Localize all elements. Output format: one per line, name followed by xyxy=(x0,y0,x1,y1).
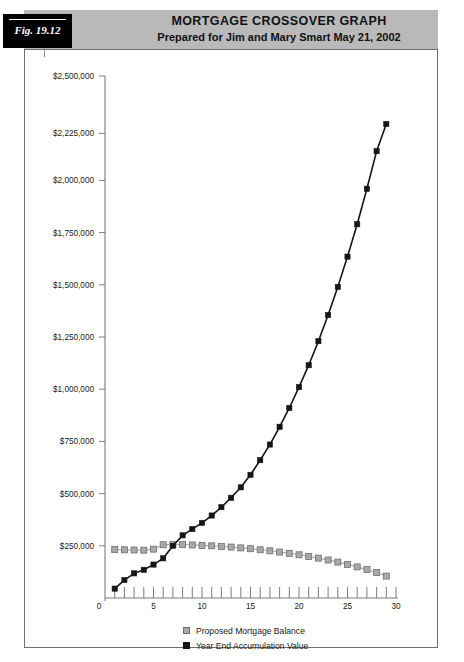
data-point-marker xyxy=(121,547,127,553)
data-point-marker xyxy=(238,485,243,490)
figure-tag: Fig. 19.12 xyxy=(3,14,72,48)
figure-tag-label: Fig. 19.12 xyxy=(3,24,72,36)
data-point-marker xyxy=(131,547,137,553)
data-point-marker xyxy=(374,570,380,576)
data-point-marker xyxy=(218,543,224,549)
y-axis-tick-label: $1,500,000 xyxy=(53,281,94,290)
y-axis-tick-label: $2,500,000 xyxy=(53,72,94,81)
chart-plot-area: 0$250,000$500,000$750,000$1,000,000$1,25… xyxy=(0,0,464,662)
figure-tag-stem xyxy=(44,48,45,57)
data-point-marker xyxy=(257,547,263,553)
data-point-marker xyxy=(315,555,321,561)
data-point-marker xyxy=(219,505,224,510)
y-axis-tick-label: $2,225,000 xyxy=(53,129,94,138)
data-point-marker xyxy=(151,546,157,552)
legend-swatch-icon xyxy=(183,642,190,649)
legend-swatch-icon xyxy=(183,627,190,634)
data-point-marker xyxy=(122,577,127,582)
y-axis-tick-label: $250,000 xyxy=(60,542,95,551)
data-point-marker xyxy=(199,520,204,525)
data-point-marker xyxy=(160,542,166,548)
data-point-marker xyxy=(345,254,350,259)
chart-legend: Proposed Mortgage Balance Year End Accum… xyxy=(183,624,403,654)
legend-label: Year End Accumulation Value xyxy=(196,641,308,651)
data-point-marker xyxy=(209,543,215,549)
y-axis-tick-label: $2,000,000 xyxy=(53,176,94,185)
data-point-marker xyxy=(151,562,156,567)
data-point-marker xyxy=(238,545,244,551)
data-point-marker xyxy=(296,385,301,390)
data-point-marker xyxy=(190,527,195,532)
data-point-marker xyxy=(306,553,312,559)
data-point-marker xyxy=(199,542,205,548)
data-point-marker xyxy=(248,472,253,477)
data-point-marker xyxy=(355,222,360,227)
x-axis-tick-label: 5 xyxy=(151,602,156,611)
data-point-marker xyxy=(170,543,175,548)
x-axis-tick-label: 30 xyxy=(391,602,401,611)
data-point-marker xyxy=(161,556,166,561)
data-point-marker xyxy=(326,312,331,317)
legend-item-proposed-mortgage-balance: Proposed Mortgage Balance xyxy=(183,624,403,637)
data-point-marker xyxy=(306,363,311,368)
y-axis-tick-label: $1,000,000 xyxy=(53,385,94,394)
data-point-marker xyxy=(112,547,118,553)
y-axis-tick-label: 0 xyxy=(97,602,102,611)
legend-item-year-end-accumulation-value: Year End Accumulation Value xyxy=(183,639,403,652)
data-point-marker xyxy=(180,533,185,538)
data-point-marker xyxy=(286,550,292,556)
data-point-marker xyxy=(277,424,282,429)
line-chart: 0$250,000$500,000$750,000$1,000,000$1,25… xyxy=(0,0,464,662)
data-point-marker xyxy=(364,567,370,573)
data-point-marker xyxy=(258,458,263,463)
data-point-marker xyxy=(180,542,186,548)
data-point-marker xyxy=(345,561,351,567)
data-point-marker xyxy=(383,573,389,579)
data-point-marker xyxy=(141,567,146,572)
chart-series-group xyxy=(112,121,390,591)
data-point-marker xyxy=(267,442,272,447)
data-point-marker xyxy=(335,559,341,565)
figure-page: MORTGAGE CROSSOVER GRAPH Prepared for Ji… xyxy=(0,0,464,662)
data-point-marker xyxy=(248,546,254,552)
x-axis-tick-label: 20 xyxy=(294,602,304,611)
data-point-marker xyxy=(267,548,273,554)
data-point-marker xyxy=(189,542,195,548)
data-point-marker xyxy=(325,557,331,563)
data-point-marker xyxy=(296,552,302,558)
x-axis: 51015202530 xyxy=(105,587,401,611)
data-point-marker xyxy=(141,547,147,553)
figure-tag-rule xyxy=(9,19,66,20)
y-axis-tick-label: $1,750,000 xyxy=(53,229,94,238)
y-axis: 0$250,000$500,000$750,000$1,000,000$1,25… xyxy=(53,72,105,611)
legend-label: Proposed Mortgage Balance xyxy=(196,626,305,636)
x-axis-tick-label: 25 xyxy=(343,602,353,611)
data-point-marker xyxy=(209,513,214,518)
data-point-marker xyxy=(374,149,379,154)
data-point-marker xyxy=(229,495,234,500)
data-point-marker xyxy=(228,544,234,550)
x-axis-tick-label: 15 xyxy=(246,602,256,611)
data-point-marker xyxy=(364,186,369,191)
data-point-marker xyxy=(354,564,360,570)
data-point-marker xyxy=(132,571,137,576)
data-point-marker xyxy=(384,121,389,126)
data-point-marker xyxy=(287,405,292,410)
data-point-marker xyxy=(335,284,340,289)
data-point-marker xyxy=(112,586,117,591)
x-axis-tick-label: 10 xyxy=(197,602,207,611)
y-axis-tick-label: $750,000 xyxy=(60,437,95,446)
y-axis-tick-label: $1,250,000 xyxy=(53,333,94,342)
series-line-year-end-accumulation-value xyxy=(115,124,387,589)
data-point-marker xyxy=(277,549,283,555)
y-axis-tick-label: $500,000 xyxy=(60,490,95,499)
data-point-marker xyxy=(316,339,321,344)
